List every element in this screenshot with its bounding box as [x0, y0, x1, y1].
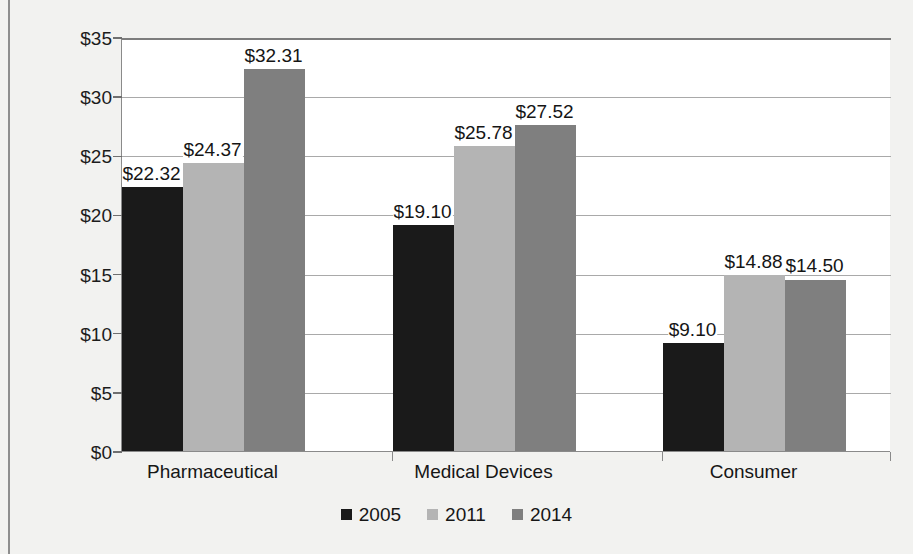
y-tick-mark-5 — [113, 392, 122, 394]
bar-value-label: $9.10 — [668, 320, 718, 339]
legend-item-2005[interactable]: 2005 — [341, 505, 401, 524]
legend-item-2014[interactable]: 2014 — [512, 505, 572, 524]
legend-item-2011[interactable]: 2011 — [427, 505, 486, 524]
x-category-label: Medical Devices — [392, 462, 575, 481]
y-tick-mark-30 — [113, 96, 122, 98]
legend-swatch-icon — [512, 509, 523, 520]
bar-2005-pharmaceutical[interactable] — [122, 187, 183, 451]
bar-2011-consumer[interactable] — [724, 275, 785, 451]
y-tick-label-35: $35 — [38, 29, 112, 48]
bar-2005-consumer[interactable] — [663, 343, 724, 451]
y-tick-label-10: $10 — [38, 325, 112, 344]
y-tick-mark-25 — [113, 156, 122, 158]
legend-label: 2014 — [530, 505, 572, 524]
plot-area — [121, 38, 890, 452]
legend-label: 2005 — [359, 505, 401, 524]
y-tick-label-15: $15 — [38, 266, 112, 285]
x-category-label: Consumer — [662, 462, 845, 481]
y-tick-mark-10 — [113, 333, 122, 335]
bar-2014-pharmaceutical[interactable] — [244, 69, 305, 451]
bar-value-label: $14.50 — [784, 256, 844, 275]
y-tick-label-25: $25 — [38, 147, 112, 166]
bar-2011-pharmaceutical[interactable] — [183, 163, 244, 451]
legend-swatch-icon — [341, 509, 352, 520]
bar-value-label: $22.32 — [121, 164, 181, 183]
y-tick-mark-35 — [113, 37, 122, 39]
x-category-label: Pharmaceutical — [121, 462, 304, 481]
bar-value-label: $19.10 — [392, 202, 452, 221]
bar-value-label: $27.52 — [514, 102, 574, 121]
bar-2011-medical-devices[interactable] — [454, 146, 515, 451]
y-tick-label-0: $0 — [38, 443, 112, 462]
y-tick-label-20: $20 — [38, 206, 112, 225]
y-tick-mark-0 — [113, 451, 122, 453]
legend-label: 2011 — [445, 505, 486, 524]
bar-2005-medical-devices[interactable] — [393, 225, 454, 451]
x-tick-mark — [890, 452, 891, 461]
bar-value-label: $14.88 — [723, 252, 783, 271]
bar-value-label: $24.37 — [182, 140, 242, 159]
bar-2014-medical-devices[interactable] — [515, 125, 576, 451]
grouped-bar-chart: $0$5$10$15$20$25$30$35 200520112014 $22.… — [0, 0, 913, 554]
legend-swatch-icon — [427, 509, 438, 520]
y-tick-mark-15 — [113, 274, 122, 276]
y-axis: $0$5$10$15$20$25$30$35 — [30, 0, 112, 554]
y-tick-mark-20 — [113, 215, 122, 217]
x-tick-mark — [392, 452, 393, 461]
x-tick-mark — [662, 452, 663, 461]
bar-value-label: $32.31 — [243, 46, 303, 65]
gridline-30 — [122, 97, 891, 98]
y-tick-label-5: $5 — [38, 384, 112, 403]
y-tick-label-30: $30 — [38, 88, 112, 107]
chart-legend: 200520112014 — [0, 505, 913, 524]
gridline-35 — [122, 38, 891, 40]
bar-value-label: $25.78 — [453, 123, 513, 142]
bar-2014-consumer[interactable] — [785, 280, 846, 452]
